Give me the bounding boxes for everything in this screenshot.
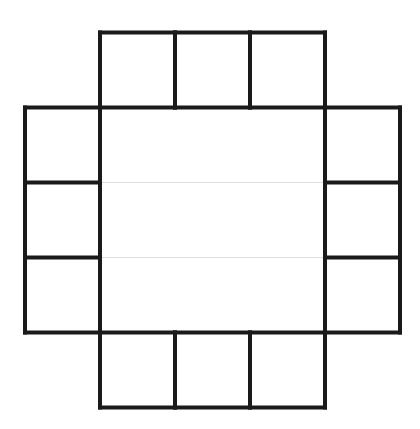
grid-cell-right-r3-c4 (325, 258, 400, 333)
grid-cells (25, 33, 400, 408)
grid-cell-center-r3-c3 (250, 258, 325, 333)
grid-cell-left-r2-c0 (25, 183, 100, 258)
grid-cell-right-r2-c4 (325, 183, 400, 258)
grid-cell-top-r0-c2 (175, 33, 250, 108)
grid-cell-top-r0-c1 (100, 33, 175, 108)
cross-grid-diagram (0, 0, 420, 429)
grid-cell-left-r3-c0 (25, 258, 100, 333)
grid-cell-center-r2-c2 (175, 183, 250, 258)
grid-cell-bottom-r4-c3 (250, 333, 325, 408)
grid-cell-center-r2-c3 (250, 183, 325, 258)
grid-cell-center-r1-c3 (250, 108, 325, 183)
grid-cell-right-r1-c4 (325, 108, 400, 183)
grid-cell-bottom-r4-c2 (175, 333, 250, 408)
grid-cell-left-r1-c0 (25, 108, 100, 183)
grid-cell-top-r0-c3 (250, 33, 325, 108)
grid-cell-bottom-r4-c1 (100, 333, 175, 408)
grid-cell-center-r2-c1 (100, 183, 175, 258)
grid-cell-center-r3-c2 (175, 258, 250, 333)
grid-cell-center-r1-c2 (175, 108, 250, 183)
grid-cell-center-r1-c1 (100, 108, 175, 183)
grid-cell-center-r3-c1 (100, 258, 175, 333)
